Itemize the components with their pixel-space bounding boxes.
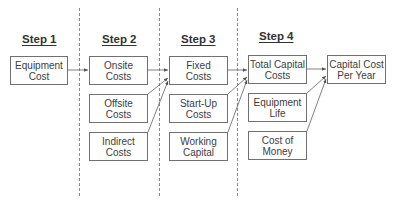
cost-of-money-box: Cost ofMoney <box>248 131 307 160</box>
capital-cost-per-year-box: Capital CostPer Year <box>327 55 386 84</box>
offsite-costs-box: OffsiteCosts <box>89 94 148 123</box>
working-capital-box: WorkingCapital <box>169 132 228 161</box>
total-capital-costs-box: Total CapitalCosts <box>248 55 307 84</box>
equipment-life-box: EquipmentLife <box>248 93 307 122</box>
fixed-costs-box: FixedCosts <box>169 56 228 85</box>
startup-costs-box: Start-UpCosts <box>169 94 228 123</box>
indirect-costs-box: IndirectCosts <box>89 132 148 161</box>
equipment-cost-box: EquipmentCost <box>10 56 68 85</box>
onsite-costs-box: OnsiteCosts <box>89 56 148 85</box>
